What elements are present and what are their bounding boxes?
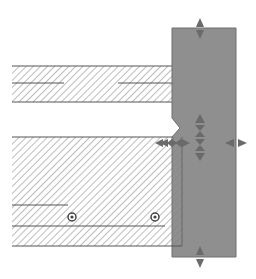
- lower-slab[interactable]: [12, 137, 182, 246]
- bolt-icon[interactable]: [151, 213, 159, 221]
- bolt-icon[interactable]: [68, 213, 76, 221]
- lower-slab-overlap-strip: [172, 137, 182, 246]
- diagram-canvas: [0, 0, 256, 279]
- upper-slab[interactable]: [12, 66, 172, 102]
